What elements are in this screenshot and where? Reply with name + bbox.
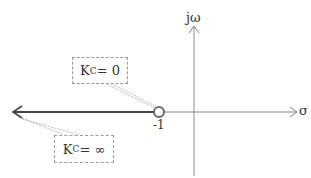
annotation-kc-zero: KC = 0 [72, 57, 128, 84]
imag-axis-label: jω [186, 10, 201, 25]
annotation-kc-inf: KC = ∞ [54, 135, 114, 163]
real-axis-label: σ [299, 103, 308, 118]
zero-label: -1 [153, 118, 165, 132]
root-locus-plot [0, 0, 311, 178]
